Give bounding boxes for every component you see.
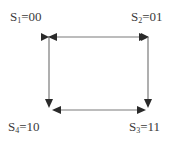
arrowhead-left-bottom <box>52 106 61 114</box>
state-code: 11 <box>148 119 161 134</box>
state-index: 1 <box>17 16 21 25</box>
state-code: 10 <box>27 119 40 134</box>
state-label-s1: S1=00 <box>10 10 42 25</box>
arrowhead-left-down <box>45 99 53 108</box>
state-diagram: S1=00 S2=01 S4=10 S3=11 <box>0 0 180 141</box>
state-index: 2 <box>138 16 142 25</box>
arrowhead-right-top <box>139 33 148 41</box>
state-label-s4: S4=10 <box>8 120 40 135</box>
arrowhead-right-bottom <box>137 106 146 114</box>
state-label-s3: S3=11 <box>129 120 160 135</box>
state-index: 4 <box>15 126 19 135</box>
state-code: 00 <box>29 9 42 24</box>
state-index: 3 <box>136 126 140 135</box>
arrowhead-right-down <box>144 99 152 108</box>
state-code: 01 <box>150 9 163 24</box>
state-label-s2: S2=01 <box>131 10 163 25</box>
